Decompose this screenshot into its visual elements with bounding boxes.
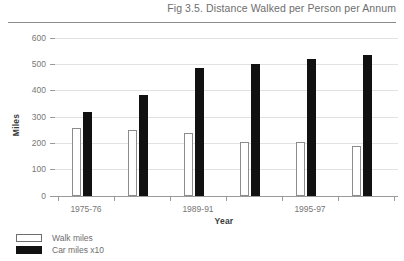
x-tick-6 — [394, 197, 395, 201]
x-axis-label: Year — [50, 216, 398, 226]
x-tick-2 — [170, 197, 171, 201]
x-tick-label-1995-97: 1995-97 — [280, 204, 340, 214]
legend-swatch-walk-miles — [16, 234, 42, 242]
bar-walk-0 — [72, 128, 81, 196]
bar-car-4 — [307, 59, 316, 196]
chart-plot-area: 600 500 400 300 200 100 0 Miles 1975-76 … — [0, 0, 404, 261]
gridline-400 — [50, 90, 398, 91]
bar-car-3 — [251, 64, 260, 196]
legend-label-car-miles: Car miles x10 — [52, 245, 104, 255]
bar-walk-5 — [352, 146, 361, 196]
bar-car-5 — [363, 55, 372, 196]
bar-car-2 — [195, 68, 204, 196]
gridline-100 — [50, 169, 398, 170]
y-tick-label-500: 500 — [18, 60, 46, 68]
y-tick-label-100: 100 — [18, 165, 46, 173]
y-tick-dash-500 — [50, 64, 55, 65]
gridline-200 — [50, 143, 398, 144]
bar-car-0 — [83, 112, 92, 196]
y-axis-label: Miles — [11, 102, 21, 148]
x-tick-label-1975-76: 1975-76 — [56, 204, 116, 214]
y-tick-label-400: 400 — [18, 86, 46, 94]
gridline-600 — [50, 38, 398, 39]
y-tick-label-300: 300 — [18, 113, 46, 121]
bar-car-1 — [139, 95, 148, 196]
gridline-500 — [50, 64, 398, 65]
x-tick-label-1989-91: 1989-91 — [168, 204, 228, 214]
y-tick-dash-200 — [50, 143, 55, 144]
x-tick-5 — [338, 197, 339, 201]
y-tick-label-0: 0 — [18, 192, 46, 200]
y-tick-dash-300 — [50, 117, 55, 118]
gridline-300 — [50, 117, 398, 118]
x-tick-4 — [282, 197, 283, 201]
x-axis-line — [50, 196, 398, 197]
legend-swatch-car-miles — [16, 246, 42, 254]
y-tick-label-600: 600 — [18, 34, 46, 42]
y-tick-dash-600 — [50, 38, 55, 39]
y-tick-dash-100 — [50, 169, 55, 170]
bar-walk-4 — [296, 142, 305, 196]
bar-walk-2 — [184, 133, 193, 196]
x-tick-0 — [58, 197, 59, 201]
bar-walk-3 — [240, 142, 249, 196]
legend-label-walk-miles: Walk miles — [52, 233, 93, 243]
bar-walk-1 — [128, 130, 137, 196]
x-tick-1 — [114, 197, 115, 201]
y-tick-dash-400 — [50, 90, 55, 91]
y-tick-label-200: 200 — [18, 139, 46, 147]
x-tick-3 — [226, 197, 227, 201]
